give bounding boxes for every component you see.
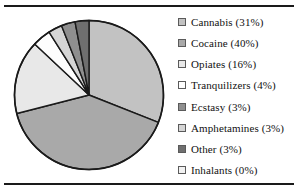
legend-label-other: Other (3%) [191, 141, 242, 157]
legend-swatch-ecstasy [178, 103, 186, 111]
legend-label-tranquilizers: Tranquilizers (4%) [191, 77, 276, 93]
legend-label-cocaine: Cocaine (40%) [191, 35, 259, 51]
legend-swatch-amphetamines [178, 124, 186, 132]
bottom-horizontal-rule [4, 183, 294, 185]
pie-chart-svg [11, 17, 167, 173]
legend-item-amphetamines[interactable]: Amphetamines (3%) [178, 120, 296, 136]
legend-label-ecstasy: Ecstasy (3%) [191, 99, 251, 115]
legend-label-cannabis: Cannabis (31%) [191, 14, 264, 30]
legend-swatch-tranquilizers [178, 81, 186, 89]
legend-item-cannabis[interactable]: Cannabis (31%) [178, 14, 296, 30]
legend-item-other[interactable]: Other (3%) [178, 141, 296, 157]
legend-label-inhalants: Inhalants (0%) [191, 162, 257, 178]
pie-chart-plot-area [11, 17, 167, 173]
legend-swatch-cocaine [178, 39, 186, 47]
legend-item-tranquilizers[interactable]: Tranquilizers (4%) [178, 77, 296, 93]
legend-item-cocaine[interactable]: Cocaine (40%) [178, 35, 296, 51]
legend-item-inhalants[interactable]: Inhalants (0%) [178, 162, 296, 178]
legend-label-amphetamines: Amphetamines (3%) [191, 120, 284, 136]
legend-swatch-other [178, 145, 186, 153]
legend-item-ecstasy[interactable]: Ecstasy (3%) [178, 99, 296, 115]
top-horizontal-rule [4, 5, 294, 7]
pie-chart-figure: Cannabis (31%) Cocaine (40%) Opiates (16… [0, 0, 298, 191]
legend-label-opiates: Opiates (16%) [191, 56, 256, 72]
legend-swatch-inhalants [178, 166, 186, 174]
legend-swatch-opiates [178, 60, 186, 68]
chart-legend: Cannabis (31%) Cocaine (40%) Opiates (16… [178, 14, 296, 178]
legend-swatch-cannabis [178, 18, 186, 26]
legend-item-opiates[interactable]: Opiates (16%) [178, 56, 296, 72]
